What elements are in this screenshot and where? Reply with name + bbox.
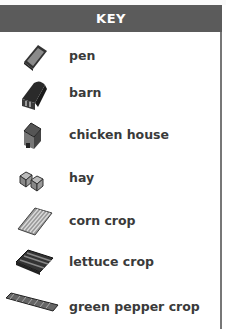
key-item-pen: pen (0, 36, 220, 76)
barn-icon (0, 73, 62, 113)
key-item-green-pepper-crop: green pepper crop (0, 287, 220, 327)
key-title: KEY (96, 11, 126, 26)
key-item-corn-crop: corn crop (0, 201, 220, 241)
key-item-label: pen (69, 36, 95, 76)
lettuce-crop-icon (0, 242, 62, 282)
key-item-lettuce-crop: lettuce crop (0, 242, 220, 282)
key-item-label: hay (69, 158, 94, 198)
key-item-label: green pepper crop (69, 287, 200, 327)
chicken-house-icon (0, 115, 62, 155)
hay-icon (0, 158, 62, 198)
key-item-label: barn (69, 73, 101, 113)
key-item-label: corn crop (69, 201, 136, 241)
corn-crop-icon (0, 201, 62, 241)
pen-icon (0, 36, 62, 76)
key-item-barn: barn (0, 73, 220, 113)
key-item-chicken-house: chicken house (0, 115, 220, 155)
key-item-label: lettuce crop (69, 242, 154, 282)
key-item-label: chicken house (69, 115, 169, 155)
key-header: KEY (0, 5, 222, 32)
right-border (220, 32, 222, 329)
key-item-hay: hay (0, 158, 220, 198)
green-pepper-crop-icon (0, 287, 62, 327)
